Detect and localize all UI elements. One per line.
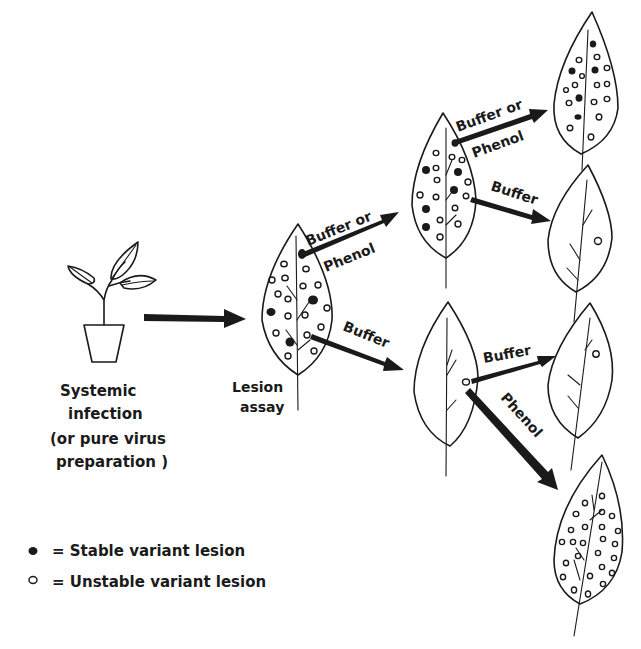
potted-plant-icon: [68, 242, 156, 362]
source-title-line2: infection: [68, 405, 143, 423]
arrow5-label: Buffer: [482, 342, 533, 366]
arrow-to-lesion-assay: [144, 309, 246, 328]
legend-stable-label: = Stable variant lesion: [52, 542, 245, 560]
leaf-second-right: [548, 165, 612, 322]
diagram-canvas: Systemic infection (or pure virus prepar…: [0, 0, 641, 649]
leaf-top-right: [554, 12, 618, 170]
arrow2-label: Buffer: [341, 318, 392, 351]
arrow4-label: Buffer: [489, 178, 540, 208]
lesion-assay-line1: Lesion: [232, 379, 283, 395]
unstable-lesion-marker-icon: [29, 577, 37, 584]
leaf-bottom-right: [554, 455, 623, 636]
arrow-buffer-4: [470, 197, 551, 224]
leaf-lower-middle: [414, 302, 478, 476]
legend: = Stable variant lesion = Unstable varia…: [29, 542, 267, 591]
lesion-variant-diagram: Systemic infection (or pure virus prepar…: [0, 0, 641, 649]
source-note-line2: preparation ): [56, 453, 168, 471]
source-title-line1: Systemic: [60, 382, 137, 400]
stable-lesion-marker-icon: [29, 547, 38, 555]
legend-unstable-label: = Unstable variant lesion: [52, 573, 266, 591]
lesion-assay-line2: assay: [240, 399, 284, 415]
source-note-line1: (or pure virus: [50, 430, 166, 448]
leaf-right-middle: [548, 303, 613, 470]
